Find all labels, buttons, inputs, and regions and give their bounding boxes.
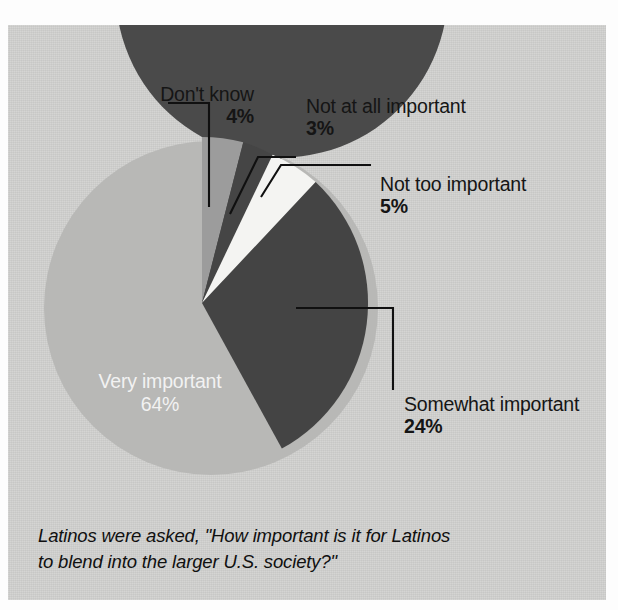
page-background: Don't know 4% Not at all important 3% No… [0,0,618,610]
chart-panel: Don't know 4% Not at all important 3% No… [8,25,606,600]
callout-not-too-important: Not too important 5% [380,173,606,217]
callout-very-important-percent: 64% [76,393,244,416]
callout-somewhat-important-percent: 24% [404,415,606,437]
callout-very-important-label: Very important [76,370,244,393]
callout-not-at-all-important-percent: 3% [306,117,536,139]
callout-dont-know-label: Don't know [86,83,254,105]
callout-very-important: Very important 64% [76,370,244,417]
callout-not-at-all-important-label: Not at all important [306,95,536,117]
chart-caption-line-1: Latinos were asked, "How important is it… [38,523,558,549]
callout-somewhat-important-label: Somewhat important [404,393,606,415]
chart-caption: Latinos were asked, "How important is it… [38,523,558,576]
callout-dont-know: Don't know 4% [86,83,254,127]
callout-dont-know-percent: 4% [86,105,254,127]
chart-caption-line-2: to blend into the larger U.S. society?" [38,549,558,575]
callout-somewhat-important: Somewhat important 24% [404,393,606,437]
callout-not-too-important-percent: 5% [380,195,606,217]
callout-not-too-important-label: Not too important [380,173,606,195]
callout-not-at-all-important: Not at all important 3% [306,95,536,139]
